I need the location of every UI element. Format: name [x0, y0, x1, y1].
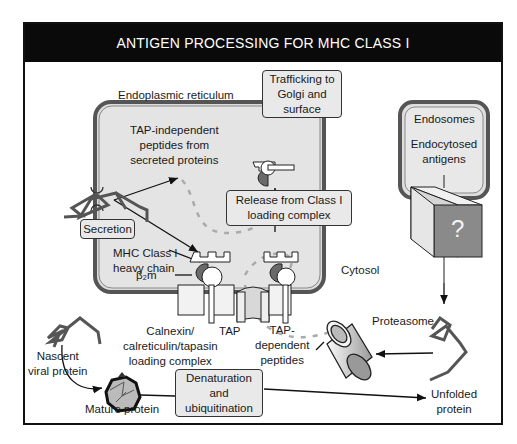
label-line: dependent [255, 338, 309, 353]
release-line: loading complex [247, 208, 330, 223]
label-line: Endocytosed [409, 137, 479, 152]
denaturation-box: Denaturation and ubiquitination [175, 369, 263, 417]
label-line: Calnexin/ [123, 324, 218, 339]
secretion-box: Secretion [80, 219, 135, 239]
b2m-label: β₂m [136, 268, 157, 283]
label-line: antigens [409, 152, 479, 167]
label-line: TAP-independent [130, 123, 219, 138]
trafficking-line: Golgi and [277, 87, 326, 102]
tap-independent-label: TAP-independent peptides from secreted p… [130, 123, 219, 168]
label-line: protein [431, 402, 477, 417]
unknown-pathway-cube [411, 187, 482, 283]
er-label: Endoplasmic reticulum [118, 88, 234, 103]
tap-dependent-label: TAP- dependent peptides [255, 323, 309, 368]
release-line: Release from Class I [236, 193, 343, 208]
denaturation-line: and [209, 386, 228, 401]
label-line: peptides from [130, 138, 219, 153]
question-mark: ? [451, 215, 464, 243]
proteasome-label: Proteasome [372, 314, 434, 329]
label-line: calreticulin/tapasin [123, 339, 218, 354]
endocytosed-label: Endocytosed antigens [409, 137, 479, 167]
cytosol-label: Cytosol [341, 263, 379, 278]
trafficking-line: surface [283, 102, 321, 117]
label-line: secreted proteins [130, 153, 219, 168]
label-line: MHC Class I [113, 246, 178, 261]
label-line: viral protein [28, 364, 87, 379]
label-line: Unfolded [431, 387, 477, 402]
denaturation-line: ubiquitination [185, 401, 253, 416]
proteasome-cylinder [322, 317, 375, 385]
denaturation-line: Denaturation [186, 371, 252, 386]
label-line: Nascent [28, 349, 87, 364]
label-line: TAP- [255, 323, 309, 338]
trafficking-box: Trafficking to Golgi and surface [262, 70, 342, 118]
calnexin-label: Calnexin/ calreticulin/tapasin loading c… [123, 324, 218, 369]
release-box: Release from Class I loading complex [226, 190, 352, 226]
tap-label: TAP [219, 324, 241, 339]
label-line: peptides [255, 353, 309, 368]
label-line: loading complex [123, 354, 218, 369]
trafficking-line: Trafficking to [269, 72, 334, 87]
endosomes-label: Endosomes [414, 112, 474, 127]
unfolded-protein-label: Unfolded protein [431, 387, 477, 417]
secretion-line: Secretion [83, 222, 132, 237]
nascent-label: Nascent viral protein [28, 349, 87, 379]
mature-protein-label: Mature protein [85, 402, 159, 417]
